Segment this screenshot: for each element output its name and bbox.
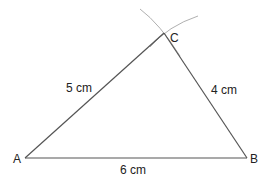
- side-label-ac: 5 cm: [66, 81, 92, 95]
- vertex-label-c: C: [170, 31, 179, 45]
- side-label-ab: 6 cm: [120, 163, 146, 177]
- side-ac: [25, 33, 164, 158]
- vertex-label-a: A: [13, 152, 21, 166]
- side-label-bc: 4 cm: [211, 83, 237, 97]
- vertex-label-b: B: [250, 152, 258, 166]
- triangle-diagram: A B C 6 cm 5 cm 4 cm: [0, 0, 269, 178]
